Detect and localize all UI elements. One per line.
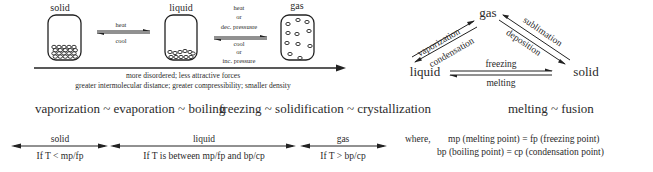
gas-label: gas [290,0,303,11]
range-gas-state: gas [337,134,350,144]
gas-particle [288,52,292,55]
heat-label-2: heat [234,4,245,11]
solid-label: solid [50,2,69,13]
or-label-1: or [236,13,242,20]
freezing-synonyms: freezing ~ solidification ~ crystallizat… [219,101,431,116]
definition-bp-cp: bp (boiling point) = cp (condensation po… [437,147,604,158]
phase-triangle: gas liquid solid vaporization condensati… [410,5,599,88]
gas-particle [295,32,299,35]
solid-container: solid [48,2,81,60]
heat-cool-arrow: heat cool [97,21,150,44]
liquid-particle [169,55,173,58]
liquid-particle [183,49,187,52]
melting-label: melting [486,78,515,88]
melting-synonyms: melting ~ fusion [508,101,594,116]
gas-particle [305,20,309,23]
triangle-solid-label: solid [573,64,599,79]
range-liquid-condition: If T is between mp/fp and bp/cp [143,151,265,161]
solid-particle [63,55,67,58]
liquid-particle [173,51,177,54]
gas-particle [296,18,300,21]
liquid-particle [184,55,188,58]
trend-text-2: greater intermolecular distance; greater… [75,81,291,90]
definitions-prefix: where, [405,134,431,144]
gas-particle [286,22,290,25]
cool-label: cool [115,37,126,44]
vaporization-synonyms: vaporization ~ evaporation ~ boiling [35,101,226,116]
liquid-container: liquid [165,2,197,60]
range-gas: gas If T > bp/cp [300,134,387,161]
range-solid-condition: If T < mp/fp [37,151,84,161]
liquid-particle [179,55,183,58]
dec-pressure-label: dec. pressusre [221,23,258,30]
solid-particles-icon [52,45,78,58]
solid-particle [73,55,77,58]
gas-particle [298,56,302,59]
phase-change-diagram: solid heat cool liquid heat or dec. pres… [0,0,653,172]
range-liquid-state: liquid [193,134,215,144]
freezing-label: freezing [485,59,516,69]
solid-particle [68,55,72,58]
heat-cool-pressure-arrow: heat or dec. pressusre cool or inc. pres… [214,4,267,64]
range-solid-state: solid [51,134,70,144]
trend-text-1: more disordered; less attractive forces [126,71,240,80]
liquid-label: liquid [169,2,192,13]
liquid-particle [191,52,195,55]
gas-particle [286,31,290,34]
gas-particle [308,44,312,47]
range-liquid: liquid If T is between mp/fp and bp/cp [110,134,296,161]
gas-container: gas [281,0,314,60]
solid-particle [58,55,62,58]
gas-particle [307,29,311,32]
gas-particle [285,41,289,44]
liquid-particle [174,55,178,58]
solid-particle [53,55,57,58]
cool-label-2: cool [233,40,244,47]
definition-mp-fp: mp (melting point) = fp (freezing point) [448,134,600,145]
liquid-particle [189,55,193,58]
gas-particle [296,42,300,45]
or-label-2: or [236,48,242,55]
triangle-gas-label: gas [479,5,496,20]
heat-label: heat [116,21,127,28]
range-gas-condition: If T > bp/cp [320,151,366,161]
liquid-particle [178,50,182,53]
range-solid: solid If T < mp/fp [11,134,108,161]
inc-pressure-label: inc. pressure [223,57,256,64]
liquid-particle [168,50,172,53]
